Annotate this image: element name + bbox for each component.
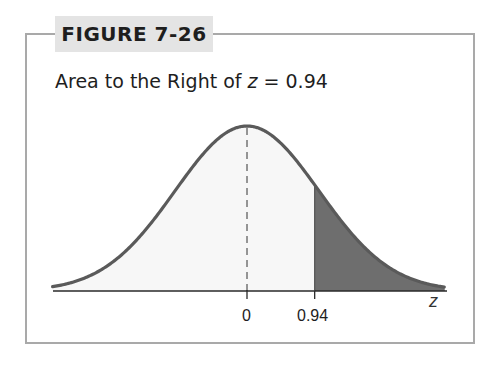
tick-label-094: 0.94 bbox=[297, 307, 328, 325]
shaded-right-tail-area bbox=[315, 185, 445, 291]
tick-label-0: 0 bbox=[242, 307, 251, 325]
axis-variable-z: z bbox=[429, 291, 438, 312]
